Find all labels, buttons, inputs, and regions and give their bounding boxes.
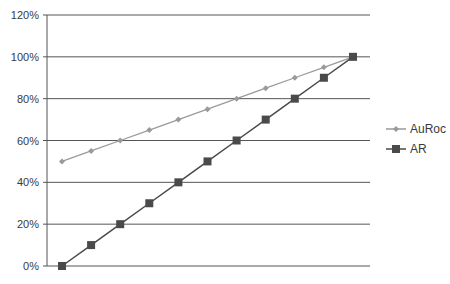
series-group — [58, 53, 357, 270]
data-point — [349, 53, 357, 61]
series-auroc — [59, 54, 356, 165]
data-point — [262, 116, 270, 124]
data-point — [204, 157, 212, 165]
line-chart: 0%20%40%60%80%100%120% AuRocAR — [0, 0, 450, 284]
data-point — [263, 85, 269, 91]
data-point — [116, 220, 124, 228]
legend-label: AuRoc — [410, 122, 446, 136]
data-point — [58, 262, 66, 270]
data-point — [321, 64, 327, 70]
y-tick-label: 60% — [17, 135, 39, 147]
data-point — [59, 158, 65, 164]
y-tick-label: 20% — [17, 218, 39, 230]
legend-label: AR — [410, 142, 427, 156]
data-point — [174, 178, 182, 186]
y-tick-labels: 0%20%40%60%80%100%120% — [11, 9, 39, 272]
legend-item: AuRoc — [386, 122, 446, 136]
y-tick-label: 120% — [11, 9, 39, 21]
data-point — [88, 148, 94, 154]
gridlines — [43, 15, 370, 266]
legend-marker-diamond-icon — [393, 126, 399, 132]
y-tick-label: 0% — [23, 260, 39, 272]
data-point — [205, 106, 211, 112]
y-tick-label: 40% — [17, 176, 39, 188]
y-tick-label: 100% — [11, 51, 39, 63]
data-point — [175, 117, 181, 123]
data-point — [234, 96, 240, 102]
data-point — [146, 127, 152, 133]
y-tick-label: 80% — [17, 93, 39, 105]
series-ar — [58, 53, 357, 270]
data-point — [291, 95, 299, 103]
data-point — [117, 138, 123, 144]
data-point — [145, 199, 153, 207]
legend-item: AR — [386, 142, 427, 156]
legend: AuRocAR — [386, 122, 446, 156]
data-point — [292, 75, 298, 81]
data-point — [320, 74, 328, 82]
legend-marker-square-icon — [392, 145, 400, 153]
data-point — [87, 241, 95, 249]
data-point — [233, 137, 241, 145]
